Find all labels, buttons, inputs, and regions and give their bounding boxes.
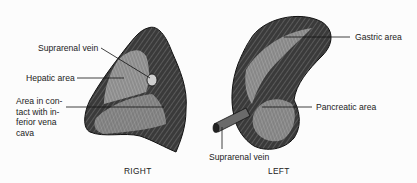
caption-right: RIGHT [124, 166, 152, 176]
right-adrenal-gland [85, 27, 187, 152]
label-ivc-contact-area: Area in con- tact with in- ferior vena c… [16, 96, 62, 138]
adrenal-gland-figure: Suprarenal vein Hepatic area Area in con… [0, 0, 417, 183]
label-right-suprarenal-vein: Suprarenal vein [38, 43, 98, 54]
left-adrenal-gland [213, 16, 331, 149]
label-hepatic-area: Hepatic area [26, 73, 75, 84]
label-gastric-area: Gastric area [355, 32, 402, 43]
caption-left: LEFT [268, 166, 290, 176]
label-pancreatic-area: Pancreatic area [316, 102, 376, 113]
label-left-suprarenal-vein: Suprarenal vein [209, 152, 269, 163]
